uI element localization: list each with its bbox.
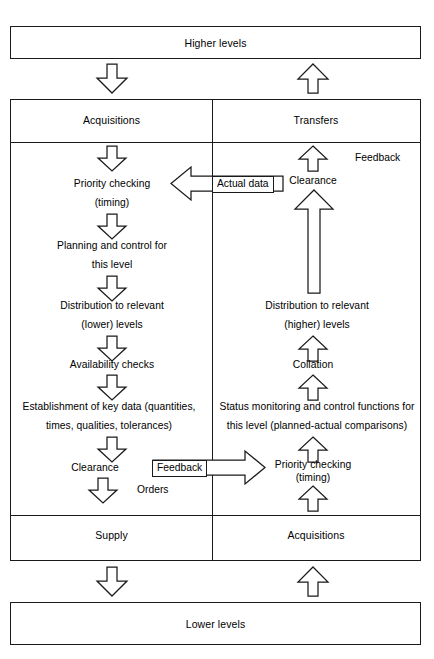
right-column-footer: Acquisitions [212,529,420,541]
left-flow-arrow-6 [97,437,127,463]
footer-divider [11,515,420,516]
up-arrow-from-lower-levels [297,567,329,597]
right-step-collation: Collation [255,358,371,372]
right-flow-arrow-top [298,146,328,172]
left-step-planning-control: Planning and control for this level [12,236,212,274]
left-column-footer: Supply [11,529,212,541]
right-step-status-monitoring-line1: Status monitoring and control functions … [213,397,421,416]
higher-levels-label: Higher levels [11,37,420,49]
left-step-distribution-lower: Distribution to relevant (lower) levels [12,296,212,334]
left-step-clearance-line1: Clearance [40,461,150,475]
right-step-priority-checking-line1: Priority checking [255,459,371,472]
left-step-key-data-line1: Establishment of key data (quantities, [6,397,212,416]
up-arrow-to-higher-levels [297,64,329,94]
lower-levels-box: Lower levels [10,602,421,645]
right-step-collation-line1: Collation [255,358,371,372]
left-step-distribution-lower-line2: (lower) levels [12,315,212,334]
left-step-availability-checks: Availability checks [12,358,212,372]
orders-label: Orders [137,484,168,495]
left-step-key-data-line2: times, qualities, tolerances) [6,416,212,435]
left-step-distribution-lower-line1: Distribution to relevant [12,296,212,315]
left-step-key-data: Establishment of key data (quantities, t… [6,397,212,435]
right-step-status-monitoring-line2: this level (planned-actual comparisons) [213,416,421,435]
right-column-header: Transfers [212,114,420,126]
higher-levels-box: Higher levels [10,26,421,59]
feedback-bottom-label: Feedback [152,460,207,477]
header-divider [11,142,420,143]
right-step-distribution-higher: Distribution to relevant (higher) levels [213,296,421,334]
right-long-up-arrow [294,190,334,294]
right-step-distribution-higher-line2: (higher) levels [213,315,421,334]
right-step-status-monitoring: Status monitoring and control functions … [213,397,421,435]
left-flow-arrow-1 [97,146,127,172]
left-step-availability-checks-line1: Availability checks [12,358,212,372]
left-step-clearance: Clearance [40,461,150,475]
right-flow-arrow-bottom [298,486,328,512]
actual-data-label: Actual data [212,176,274,193]
right-step-distribution-higher-line1: Distribution to relevant [213,296,421,315]
left-column-header: Acquisitions [11,114,212,126]
down-arrow-from-higher-levels [96,64,128,94]
left-step-planning-control-line1: Planning and control for [12,236,212,255]
diagram-canvas: Higher levels Acquisitions Transfers Sup… [0,0,434,659]
left-step-planning-control-line2: this level [12,255,212,274]
feedback-top-label: Feedback [355,152,400,163]
lower-levels-label: Lower levels [11,618,420,630]
right-step-priority-checking-line2: (timing) [255,472,371,485]
left-flow-arrow-7 [88,478,118,504]
right-step-priority-checking: Priority checking (timing) [255,459,371,484]
down-arrow-to-lower-levels [96,567,128,597]
